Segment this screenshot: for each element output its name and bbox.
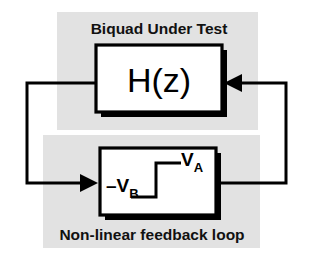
- diagram-bottom-caption: Non-linear feedback loop: [59, 226, 244, 243]
- level-low-subscript: B: [129, 186, 138, 201]
- level-high-symbol: V: [181, 149, 194, 170]
- diagram-title: Biquad Under Test: [91, 20, 228, 37]
- biquad-block-label: H(z): [127, 61, 191, 99]
- block-diagram: H(z) Biquad Under Test VA –VB Non-linear…: [0, 0, 311, 255]
- figure-container: H(z) Biquad Under Test VA –VB Non-linear…: [0, 0, 311, 255]
- level-high-subscript: A: [194, 160, 204, 175]
- level-low-symbol: –V: [106, 175, 130, 196]
